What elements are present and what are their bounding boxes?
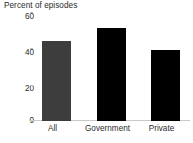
bar-group-government (97, 12, 126, 121)
y-tick-mark-20 (30, 85, 33, 86)
bar-group-all (42, 12, 71, 121)
y-tick-mark-0 (30, 121, 33, 122)
y-tick-label-40: 40 (8, 48, 34, 57)
bar-government[interactable] (97, 28, 126, 121)
x-tick-label-all: All (28, 124, 77, 134)
bar-group-private (151, 12, 180, 121)
y-tick-mark-40 (30, 48, 33, 49)
y-tick-mark-60 (30, 12, 33, 13)
x-tick-label-private: Private (137, 124, 186, 134)
bar-chart: Percent of episodes 60 40 20 0 All Gover… (0, 0, 193, 143)
y-tick-label-60: 60 (8, 12, 34, 21)
y-axis: 60 40 20 0 (0, 0, 34, 143)
bar-all[interactable] (42, 41, 71, 121)
bar-private[interactable] (151, 50, 180, 121)
x-tick-label-government: Government (83, 124, 132, 134)
plot-area (34, 12, 189, 121)
